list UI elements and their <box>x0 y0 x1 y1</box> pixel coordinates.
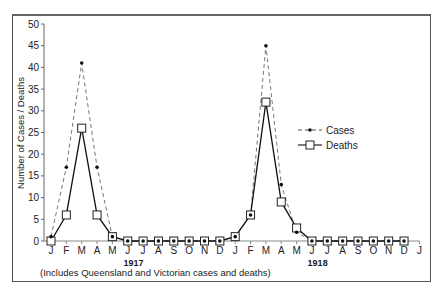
x-tick-label: M <box>292 245 300 256</box>
cases-marker <box>157 239 161 243</box>
cases-marker <box>249 213 253 217</box>
x-tick-label: S <box>170 245 177 256</box>
y-tick-label: 5 <box>33 214 39 225</box>
cases-marker <box>218 239 222 243</box>
cases-marker <box>326 239 330 243</box>
cases-marker <box>341 239 345 243</box>
deaths-marker <box>277 198 285 206</box>
line-chart: 05101520253035404550JFMAMJJASONDJFMAMJJA… <box>0 0 443 297</box>
x-tick-label: D <box>216 245 223 256</box>
cases-marker <box>65 165 69 169</box>
cases-marker <box>310 239 314 243</box>
square-marker-icon <box>306 141 314 149</box>
cases-marker <box>356 239 360 243</box>
x-tick-label: N <box>201 245 208 256</box>
x-tick-label: J <box>141 245 146 256</box>
cases-marker <box>95 165 99 169</box>
x-tick-label: J <box>233 245 238 256</box>
cases-marker <box>49 235 53 239</box>
cases-marker <box>126 239 130 243</box>
cases-marker <box>187 239 191 243</box>
legend: Cases Deaths <box>298 125 358 151</box>
cases-marker <box>203 239 207 243</box>
x-tick-label: M <box>262 245 270 256</box>
legend-cases: Cases <box>326 125 354 136</box>
y-axis-label: Number of Cases / Deaths <box>15 77 26 189</box>
legend-deaths: Deaths <box>326 140 358 151</box>
y-tick-label: 40 <box>28 62 40 73</box>
deaths-marker <box>262 98 270 106</box>
deaths-marker <box>62 211 70 219</box>
x-tick-label: J <box>417 245 422 256</box>
x-tick-label: A <box>339 245 346 256</box>
x-tick-label: J <box>325 245 330 256</box>
x-tick-label: F <box>63 245 69 256</box>
deaths-marker <box>78 124 86 132</box>
deaths-marker <box>93 211 101 219</box>
y-tick-label: 10 <box>28 192 40 203</box>
cases-marker <box>372 239 376 243</box>
cases-marker <box>141 239 145 243</box>
y-tick-label: 50 <box>28 19 40 30</box>
cases-marker <box>279 183 283 187</box>
x-tick-label: M <box>108 245 116 256</box>
chart-annotation: (Includes Queensland and Victorian cases… <box>40 267 271 278</box>
cases-marker <box>111 235 115 239</box>
x-tick-label: A <box>94 245 101 256</box>
x-tick-label: A <box>278 245 285 256</box>
y-tick-label: 15 <box>28 170 40 181</box>
x-tick-label: O <box>185 245 193 256</box>
y-tick-label: 45 <box>28 40 40 51</box>
y-tick-label: 25 <box>28 127 40 138</box>
x-tick-label: A <box>155 245 162 256</box>
year-label: 1918 <box>308 258 328 268</box>
cases-marker <box>80 61 84 65</box>
series-line-deaths <box>51 102 404 241</box>
y-tick-label: 35 <box>28 84 40 95</box>
cases-marker <box>233 235 237 239</box>
x-tick-label: J <box>309 245 314 256</box>
axes: 05101520253035404550JFMAMJJASONDJFMAMJJA… <box>28 19 422 269</box>
x-tick-label: N <box>385 245 392 256</box>
x-tick-label: O <box>369 245 377 256</box>
dot-marker-icon <box>308 128 312 132</box>
x-tick-label: F <box>247 245 253 256</box>
y-tick-label: 0 <box>33 236 39 247</box>
cases-marker <box>172 239 176 243</box>
x-tick-label: S <box>355 245 362 256</box>
cases-marker <box>264 44 268 48</box>
x-tick-label: M <box>78 245 86 256</box>
y-tick-label: 30 <box>28 105 40 116</box>
y-tick-label: 20 <box>28 149 40 160</box>
x-tick-label: J <box>125 245 130 256</box>
cases-marker <box>402 239 406 243</box>
cases-marker <box>387 239 391 243</box>
cases-marker <box>295 231 299 235</box>
x-tick-label: J <box>49 245 54 256</box>
x-tick-label: D <box>400 245 407 256</box>
